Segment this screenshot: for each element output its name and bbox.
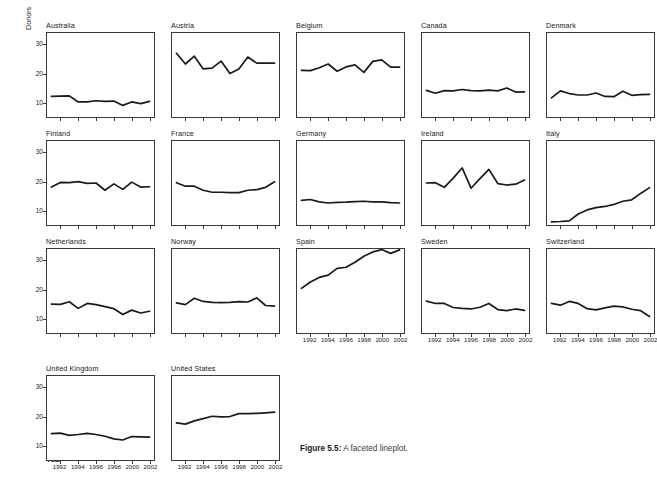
y-tick-label: 20: [36, 413, 43, 420]
facet-panel-title: Italy: [546, 129, 560, 138]
data-line: [176, 182, 274, 193]
x-tick-mark: [221, 118, 222, 121]
x-tick-mark: [400, 118, 401, 121]
x-tick-mark: [257, 118, 258, 121]
x-tick-mark: [614, 118, 615, 121]
x-tick-mark: [96, 118, 97, 121]
facet-panel-title: Germany: [296, 129, 326, 138]
x-tick-label: 1996: [89, 463, 103, 470]
x-tick-label: 1996: [589, 336, 603, 343]
x-tick-mark: [507, 118, 508, 121]
y-tick-label: 10: [36, 443, 43, 450]
x-tick-mark: [239, 118, 240, 121]
facet-plot-area: [46, 375, 155, 461]
x-tick-label: 1998: [357, 336, 371, 343]
x-tick-label: 2000: [500, 336, 514, 343]
y-tick-label: 20: [36, 178, 43, 185]
x-tick-mark: [435, 118, 436, 121]
x-tick-mark: [239, 334, 240, 337]
x-axis-tick-labels: 199219941996199820002002: [546, 336, 655, 348]
x-tick-mark: [60, 118, 61, 121]
x-axis-tick-labels: 199219941996199820002002: [296, 336, 405, 348]
y-tick-mark: [43, 387, 46, 388]
facet-panel-title: Canada: [421, 21, 447, 30]
facet-plot-area: [46, 140, 155, 226]
x-tick-mark: [275, 118, 276, 121]
x-tick-mark: [453, 226, 454, 229]
y-tick-mark: [43, 74, 46, 75]
x-tick-mark: [60, 226, 61, 229]
data-line: [426, 301, 524, 311]
x-tick-label: 1998: [232, 463, 246, 470]
x-tick-mark: [560, 118, 561, 121]
x-tick-mark: [78, 226, 79, 229]
data-line: [51, 96, 149, 106]
x-tick-mark: [364, 226, 365, 229]
x-tick-label: 2002: [519, 336, 533, 343]
x-tick-label: 1992: [178, 463, 192, 470]
x-tick-mark: [453, 118, 454, 121]
x-tick-mark: [400, 226, 401, 229]
x-tick-mark: [507, 226, 508, 229]
y-tick-label: 10: [36, 208, 43, 215]
x-tick-mark: [328, 226, 329, 229]
data-line: [51, 433, 149, 440]
x-tick-label: 1998: [482, 336, 496, 343]
data-line: [301, 60, 399, 72]
x-tick-mark: [96, 334, 97, 337]
y-tick-mark: [43, 182, 46, 183]
y-tick-label: 30: [36, 383, 43, 390]
x-tick-mark: [632, 118, 633, 121]
x-tick-label: 1994: [71, 463, 85, 470]
facet-plot-area: [171, 32, 280, 118]
data-line: [426, 88, 524, 93]
x-tick-label: 1996: [339, 336, 353, 343]
x-tick-label: 2002: [394, 336, 408, 343]
facet-plot-area: [171, 248, 280, 334]
x-axis-tick-labels: 199219941996199820002002: [46, 463, 155, 475]
x-tick-mark: [489, 118, 490, 121]
facet-plot-area: [421, 140, 530, 226]
y-tick-mark: [43, 44, 46, 45]
x-tick-label: 1994: [571, 336, 585, 343]
facet-panel-title: United Kingdom: [46, 364, 99, 373]
x-tick-label: 1994: [196, 463, 210, 470]
figure-caption: Figure 5.5: A faceted lineplot.: [300, 444, 408, 453]
y-tick-label: 30: [36, 40, 43, 47]
x-tick-mark: [578, 118, 579, 121]
x-tick-label: 1998: [107, 463, 121, 470]
y-tick-label: 20: [36, 286, 43, 293]
x-tick-label: 1996: [464, 336, 478, 343]
x-tick-mark: [239, 226, 240, 229]
facet-plot-area: [546, 32, 655, 118]
x-tick-label: 2002: [144, 463, 158, 470]
y-tick-mark: [43, 211, 46, 212]
facet-plot-area: [46, 248, 155, 334]
y-tick-mark: [43, 260, 46, 261]
x-tick-label: 1992: [303, 336, 317, 343]
x-tick-mark: [132, 334, 133, 337]
x-tick-mark: [310, 118, 311, 121]
x-tick-mark: [471, 226, 472, 229]
figure-caption-text: A faceted lineplot.: [341, 444, 407, 453]
x-tick-label: 1996: [214, 463, 228, 470]
figure-caption-label: Figure 5.5:: [300, 444, 341, 453]
facet-panel-title: Ireland: [421, 129, 444, 138]
facet-panel-title: Netherlands: [46, 237, 86, 246]
x-tick-mark: [578, 226, 579, 229]
x-tick-mark: [185, 226, 186, 229]
x-tick-mark: [364, 118, 365, 121]
y-axis-label: Donors: [24, 7, 33, 30]
facet-panel-title: Norway: [171, 237, 196, 246]
x-tick-mark: [185, 118, 186, 121]
data-line: [301, 200, 399, 203]
x-tick-mark: [114, 118, 115, 121]
x-tick-mark: [596, 118, 597, 121]
data-line: [426, 168, 524, 188]
x-tick-mark: [650, 226, 651, 229]
x-tick-label: 1992: [553, 336, 567, 343]
x-tick-label: 1998: [607, 336, 621, 343]
x-tick-label: 1994: [446, 336, 460, 343]
data-line: [176, 298, 274, 306]
